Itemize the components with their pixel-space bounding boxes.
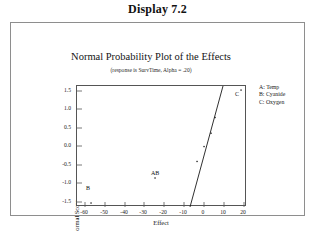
y-tick-4: 0.0 [49,142,71,148]
x-tick-1: -60 [74,209,94,215]
legend-item-c: C: Oxygen [259,99,285,106]
data-point [154,177,155,178]
y-tick-6: -1.0 [47,179,71,185]
chart-subtitle: (response is SurvTime, Alpha = .20) [31,67,271,73]
legend: A: Temp B: Cyanide C: Oxygen [259,84,285,106]
y-tick-7: -1.5 [47,198,71,204]
x-tick-7: 0 [193,209,213,215]
y-tick-3: 0.5 [49,124,71,130]
x-tick-9: 20 [233,209,253,215]
y-tick-marks [77,91,82,202]
x-tick-3: -40 [114,209,134,215]
figure-root: Display 7.2 Normal Probability Plot of t… [0,0,315,231]
reference-line [190,86,223,207]
data-point [196,161,197,162]
data-point [240,89,241,90]
y-tick-1: 1.5 [49,87,71,93]
display-caption: Display 7.2 [0,2,315,17]
data-point [210,133,211,134]
data-point [214,117,215,118]
x-tick-6: -10 [173,209,193,215]
point-label-b: B [86,185,90,191]
point-label-c: C [235,91,239,97]
scatter-plot-svg [77,86,247,207]
x-tick-8: 10 [213,209,233,215]
x-tick-4: -30 [133,209,153,215]
x-axis-title: Effect [76,219,246,226]
figure-frame: Normal Probability Plot of the Effects (… [10,22,305,216]
y-tick-2: 1.0 [49,105,71,111]
point-label-ab: AB [151,170,159,176]
legend-item-a: A: Temp [259,84,285,91]
legend-item-b: B: Cyanide [259,91,285,98]
plot-area: B AB C [76,85,246,206]
data-points [90,89,241,203]
y-tick-5: -0.5 [47,161,71,167]
x-tick-2: -50 [94,209,114,215]
data-point [90,202,91,203]
data-point [203,146,204,147]
chart-title: Normal Probability Plot of the Effects [31,51,271,62]
x-tick-5: -20 [153,209,173,215]
x-tick-marks [85,202,244,207]
